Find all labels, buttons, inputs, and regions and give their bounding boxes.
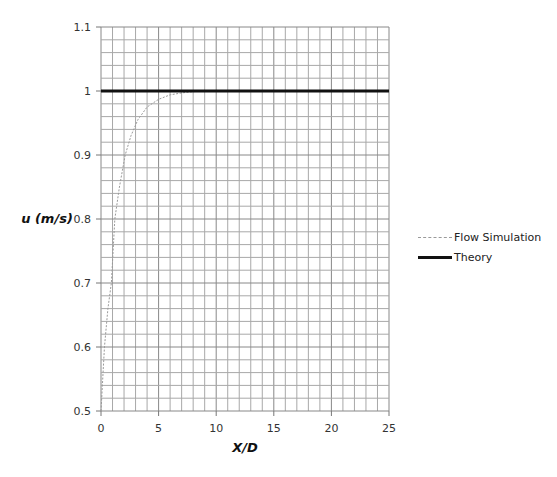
legend: Flow Simulation Theory — [418, 227, 541, 267]
dashed-line-swatch-icon — [418, 237, 452, 238]
y-axis-title: u (m/s) — [21, 211, 73, 226]
x-tick-label: 15 — [267, 422, 281, 435]
x-tick-label: 25 — [382, 422, 396, 435]
x-tick-label: 20 — [324, 422, 338, 435]
x-tick-label: 5 — [155, 422, 162, 435]
x-tick-label: 10 — [209, 422, 223, 435]
y-tick-label: 1.1 — [74, 21, 92, 34]
grid-lines — [96, 27, 389, 416]
x-tick-label: 0 — [98, 422, 105, 435]
legend-item-flow-simulation: Flow Simulation — [418, 227, 541, 247]
y-tick-label: 0.6 — [74, 341, 92, 354]
solid-line-swatch-icon — [418, 256, 452, 259]
legend-label: Theory — [454, 251, 492, 264]
y-tick-label: 1 — [84, 85, 91, 98]
data-series — [101, 91, 389, 411]
y-tick-label: 0.8 — [74, 213, 92, 226]
legend-label: Flow Simulation — [454, 231, 541, 244]
y-tick-label: 0.5 — [74, 405, 92, 418]
x-axis-title: X/D — [231, 440, 258, 455]
y-tick-label: 0.9 — [74, 149, 92, 162]
legend-item-theory: Theory — [418, 247, 541, 267]
y-tick-label: 0.7 — [74, 277, 92, 290]
